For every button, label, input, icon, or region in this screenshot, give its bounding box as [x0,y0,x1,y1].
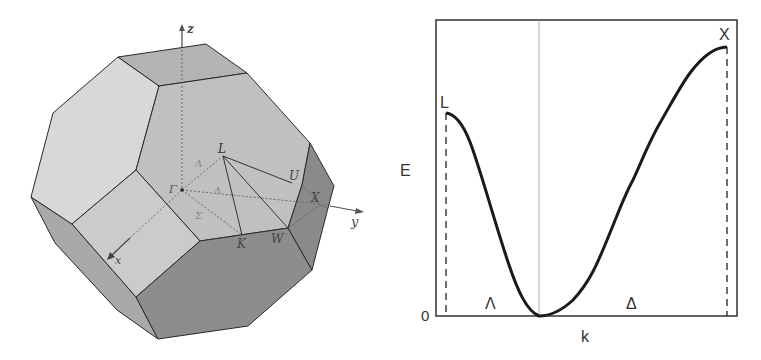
x-axis-title: k [581,328,590,345]
x-peak-label: X [719,26,730,43]
z-axis-label: z [186,22,195,36]
delta-region-label: Δ [626,295,637,312]
l-point-label: L [217,142,226,156]
x-axis-label: x [115,254,122,267]
y-axis-arrow [330,206,357,211]
delta-label: Δ [213,185,221,196]
w-point-label: W [271,232,285,246]
lambda-label: Λ [194,158,202,169]
gamma-label: Γ [168,183,177,196]
band-curve [446,47,727,316]
y-axis-label: y [350,214,359,229]
y-axis-title: E [400,162,411,179]
brillouin-zone: z x y [31,22,364,339]
figure: z x y [0,0,761,360]
sigma-label: Σ [194,210,203,221]
u-point-label: U [289,169,300,183]
band-plot: E k 0 L X Λ Δ [400,20,737,345]
x-point-label: X [310,191,320,205]
plot-frame [436,20,737,316]
zero-tick-label: 0 [421,307,429,324]
l-peak-label: L [440,94,449,111]
gamma-point [180,188,184,192]
lambda-region-label: Λ [485,295,496,312]
z-arrowhead-icon [179,24,185,31]
k-point-label: K [236,237,247,251]
